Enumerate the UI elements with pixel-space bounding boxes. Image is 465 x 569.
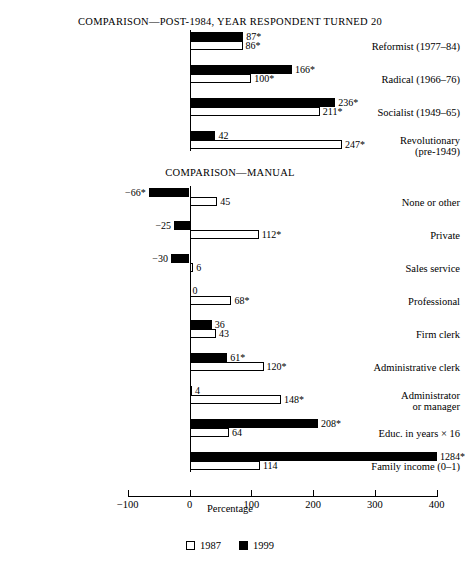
zero-baseline bbox=[190, 186, 191, 472]
bar-value-label: −25 bbox=[155, 221, 171, 231]
bar-1999 bbox=[190, 65, 293, 74]
bar-value-label: 247* bbox=[345, 140, 365, 150]
bar-value-label: 112* bbox=[262, 230, 282, 240]
bar-value-label: 211* bbox=[323, 107, 343, 117]
category-label: Firm clerk bbox=[340, 329, 460, 340]
x-axis-tick bbox=[251, 490, 252, 497]
bar-1987 bbox=[190, 461, 260, 470]
plot-area-bottom: None or other−66*45Private−25112*Sales s… bbox=[0, 186, 460, 486]
legend-label-1999: 1999 bbox=[253, 540, 274, 551]
x-axis-title: Percentage bbox=[0, 503, 460, 514]
category-label: Private bbox=[340, 230, 460, 241]
bar-1987 bbox=[190, 329, 217, 338]
legend-swatch-1987-icon bbox=[186, 541, 195, 550]
bar-1999 bbox=[190, 419, 318, 428]
bar-1987 bbox=[190, 230, 259, 239]
bar-1999-clipped bbox=[190, 452, 438, 461]
bar-1999 bbox=[190, 131, 216, 140]
bar-value-label: 6 bbox=[196, 263, 201, 273]
x-axis-line bbox=[128, 496, 437, 497]
legend-label-1987: 1987 bbox=[200, 540, 221, 551]
bar-value-label: 0 bbox=[193, 286, 198, 296]
category-label: Family income (0–1) bbox=[340, 461, 460, 472]
x-axis-tick bbox=[190, 490, 191, 497]
bar-1987 bbox=[190, 41, 243, 50]
category-label: Radical (1966–76) bbox=[340, 74, 460, 85]
bar-value-label: 148* bbox=[284, 395, 304, 405]
bar-1987 bbox=[190, 428, 230, 437]
legend-item-1987: 1987 bbox=[186, 540, 221, 551]
legend-item-1999: 1999 bbox=[239, 540, 274, 551]
bar-1987 bbox=[190, 296, 232, 305]
bar-1987 bbox=[190, 107, 320, 116]
bar-value-label: 120* bbox=[267, 362, 287, 372]
bar-value-label: 68* bbox=[234, 296, 249, 306]
category-label: Reformist (1977–84) bbox=[340, 41, 460, 52]
bar-1999 bbox=[190, 98, 336, 107]
panel-title-top: COMPARISON—POST-1984, YEAR RESPONDENT TU… bbox=[0, 16, 460, 27]
bar-1999 bbox=[190, 32, 244, 41]
bar-1987 bbox=[190, 74, 252, 83]
bar-value-label: 166* bbox=[295, 65, 315, 75]
category-label: Administrative clerk bbox=[340, 362, 460, 373]
bar-value-label: 43 bbox=[219, 329, 229, 339]
bar-value-label: −66* bbox=[125, 188, 146, 198]
category-label: None or other bbox=[340, 197, 460, 208]
x-axis-tick bbox=[128, 490, 129, 497]
bar-value-label: 86* bbox=[246, 41, 261, 51]
bar-value-label: 45 bbox=[220, 197, 230, 207]
bar-1987 bbox=[190, 395, 281, 404]
bar-1999 bbox=[149, 188, 190, 197]
category-label: Administrator or manager bbox=[340, 390, 460, 412]
bar-value-label: 1284* bbox=[440, 452, 465, 462]
category-label: Socialist (1949–65) bbox=[340, 107, 460, 118]
bar-1999 bbox=[171, 254, 190, 263]
category-label: Sales service bbox=[340, 263, 460, 274]
bar-1999 bbox=[174, 221, 189, 230]
category-label: Professional bbox=[340, 296, 460, 307]
x-axis-tick bbox=[313, 490, 314, 497]
bar-1999 bbox=[190, 320, 212, 329]
bar-1987 bbox=[190, 140, 343, 149]
chart-legend: 1987 1999 bbox=[0, 540, 460, 551]
legend-swatch-1999-icon bbox=[239, 541, 248, 550]
x-axis-tick bbox=[437, 490, 438, 497]
panel-title-bottom: COMPARISON—MANUAL bbox=[0, 167, 460, 178]
x-axis-tick bbox=[375, 490, 376, 497]
bar-value-label: 114 bbox=[263, 461, 278, 471]
bar-1999 bbox=[190, 353, 228, 362]
bar-1987 bbox=[190, 197, 218, 206]
category-label: Educ. in years × 16 bbox=[340, 428, 460, 439]
bar-value-label: −30 bbox=[152, 254, 168, 264]
bar-1987 bbox=[190, 362, 264, 371]
zero-baseline bbox=[190, 30, 191, 151]
bar-value-label: 208* bbox=[321, 419, 341, 429]
bar-value-label: 64 bbox=[232, 428, 242, 438]
plot-area-top: Reformist (1977–84)87*86*Radical (1966–7… bbox=[0, 30, 460, 162]
bar-value-label: 100* bbox=[254, 74, 274, 84]
